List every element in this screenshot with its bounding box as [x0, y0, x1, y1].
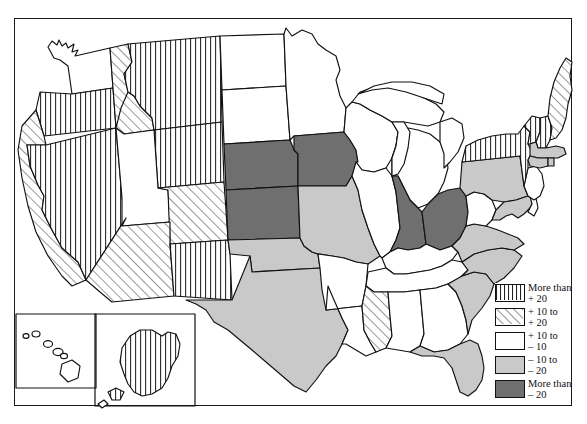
state-CT — [528, 156, 548, 168]
legend-item-4: More than– 20 — [495, 379, 571, 403]
hawaii-islands — [23, 331, 80, 382]
state-ME — [548, 58, 572, 140]
map-legend: More than+ 20 + 10 to+ 20 + 10 to– 10 – … — [495, 283, 571, 404]
state-OR — [36, 88, 116, 136]
state-KS — [226, 186, 300, 240]
legend-swatch-diagonal-hatch — [495, 308, 525, 326]
legend-label-3: – 10 to– 20 — [528, 355, 557, 376]
state-MN — [284, 28, 346, 140]
state-NM — [170, 240, 232, 300]
legend-item-0: More than+ 20 — [495, 283, 571, 307]
legend-swatch-light-gray — [495, 356, 525, 374]
state-AK — [108, 330, 180, 400]
state-RI — [548, 158, 554, 166]
legend-label-4: More than– 20 — [528, 379, 571, 400]
state-IA — [294, 132, 358, 186]
state-SD — [222, 86, 290, 144]
choropleth-map-figure: More than+ 20 + 10 to+ 20 + 10 to– 10 – … — [0, 0, 587, 424]
state-WA — [48, 40, 113, 94]
state-AL — [386, 290, 424, 352]
legend-swatch-white — [495, 332, 525, 350]
legend-item-1: + 10 to+ 20 — [495, 307, 571, 331]
state-AR — [318, 254, 368, 310]
alaska-aleutians — [98, 400, 108, 408]
lake-huron-erie — [440, 118, 464, 168]
legend-item-2: + 10 to– 10 — [495, 331, 571, 355]
legend-swatch-vertical-lines — [495, 284, 525, 302]
state-NE — [224, 140, 298, 190]
legend-label-2: + 10 to– 10 — [528, 331, 558, 352]
state-WY — [154, 122, 224, 188]
legend-label-0: More than+ 20 — [528, 283, 571, 304]
legend-label-1: + 10 to+ 20 — [528, 307, 558, 328]
state-ND — [220, 34, 286, 90]
legend-item-3: – 10 to– 20 — [495, 355, 571, 379]
legend-swatch-dark-gray — [495, 380, 525, 398]
